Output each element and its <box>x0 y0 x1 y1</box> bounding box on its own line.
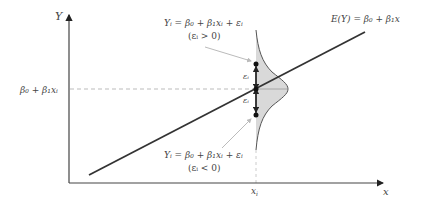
upper-point-condition: (εᵢ > 0) <box>188 31 220 41</box>
x-axis-label: x <box>383 186 389 197</box>
y-tick-label: β₀ + β₁xᵢ <box>19 85 58 95</box>
regression-diagram: Y x xi β₀ + β₁xᵢ E(Y) = β₀ + β₁x Yᵢ = β₀… <box>0 0 424 203</box>
x-tick-label: xi <box>251 186 258 197</box>
normal-distribution <box>256 30 288 150</box>
lower-point-condition: (εᵢ < 0) <box>188 163 220 173</box>
lower-pointer-arrow <box>222 119 251 148</box>
upper-data-point <box>254 62 259 67</box>
positive-error-label: εᵢ <box>243 72 249 81</box>
regression-equation: E(Y) = β₀ + β₁x <box>330 14 400 24</box>
mean-point <box>254 87 259 92</box>
upper-point-equation: Yᵢ = β₀ + β₁xᵢ + εᵢ <box>164 18 243 28</box>
lower-point-equation: Yᵢ = β₀ + β₁xᵢ + εᵢ <box>164 150 243 160</box>
negative-error-label: εᵢ <box>243 96 249 105</box>
lower-data-point <box>254 113 259 118</box>
y-axis-label: Y <box>55 10 64 23</box>
upper-pointer-arrow <box>205 47 251 61</box>
